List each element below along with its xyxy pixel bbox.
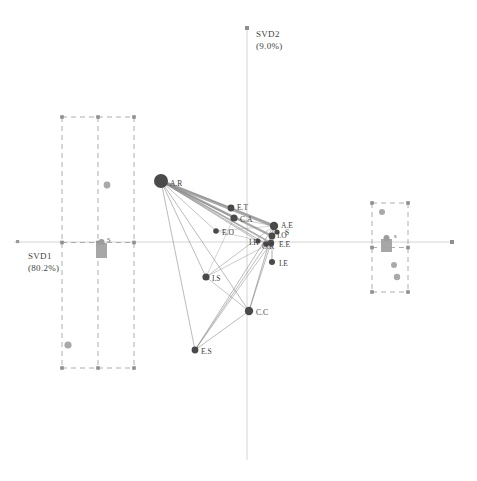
- node-A.E[interactable]: [270, 222, 278, 230]
- y-axis-name: SVD2: [256, 29, 280, 39]
- node-label-C.A: C.A: [240, 215, 252, 224]
- node-label-H.x: I.H: [249, 238, 259, 247]
- node-E.O[interactable]: [213, 228, 219, 234]
- node-label-I.E: I.E: [279, 259, 288, 268]
- node-label-S.x: S: [285, 228, 289, 237]
- biplot-svg: [0, 0, 477, 481]
- node-label-A.R: A.R: [170, 179, 182, 188]
- y-axis-label: SVD2 (9.0%): [256, 28, 283, 52]
- x-axis-name: SVD1: [28, 251, 52, 261]
- node-E.S[interactable]: [192, 347, 199, 354]
- node-I.S[interactable]: [202, 273, 209, 280]
- x-axis-variance: (80.2%): [28, 262, 59, 274]
- node-label-E.S: E.S: [201, 347, 212, 356]
- node-I.O[interactable]: [269, 233, 276, 240]
- node-C.A[interactable]: [230, 214, 237, 221]
- node-label-O.R: O.R: [262, 242, 274, 251]
- node-label-C.C: C.C: [256, 308, 268, 317]
- node-I.E[interactable]: [269, 259, 275, 265]
- node-label-E.O: E.O: [222, 228, 234, 237]
- dashed-regions: [60, 115, 410, 370]
- box-marker-label: S: [107, 236, 111, 243]
- node-label-E.T: E.T: [237, 203, 248, 212]
- node-label-E.E: E.E: [279, 240, 290, 249]
- edges-layer: [161, 181, 274, 350]
- box-marker-label: s: [394, 232, 397, 239]
- y-axis-variance: (9.0%): [256, 40, 283, 52]
- node-A.R[interactable]: [154, 174, 168, 188]
- node-C.C[interactable]: [245, 307, 253, 315]
- node-label-I.S: I.S: [212, 274, 221, 283]
- figure-canvas: SVD2 (9.0%) SVD1 (80.2%) A.RE.TC.AE.OA.E…: [0, 0, 477, 481]
- x-axis-label: SVD1 (80.2%): [28, 250, 59, 274]
- node-E.T[interactable]: [228, 205, 235, 212]
